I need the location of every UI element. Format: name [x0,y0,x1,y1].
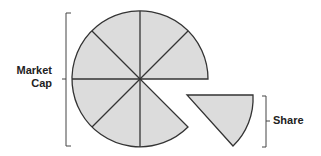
market-cap-bracket [62,13,71,146]
market-cap-label: Market Cap [6,64,52,90]
market-cap-label-line1: Market [6,64,52,77]
share-bracket [262,96,270,147]
share-label: Share [273,114,304,127]
pie-main [72,11,208,147]
share-slice [187,95,253,146]
market-cap-label-line2: Cap [6,77,52,90]
